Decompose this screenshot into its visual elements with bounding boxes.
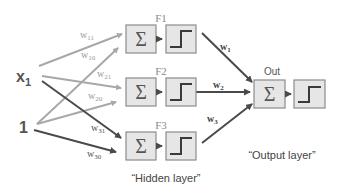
hidden-neuron-f3: F3 Σ [126, 119, 196, 160]
input-node-x1: x1 [16, 68, 31, 88]
input-hidden-weight-labels: w11 w10 w21 w20 w31 w30 [80, 29, 112, 161]
input-node-bias: 1 [19, 119, 28, 136]
neuron-label-f1: F1 [155, 12, 167, 24]
hidden-neuron-f1: F1 Σ [126, 12, 196, 53]
hidden-output-weight-labels: w1 w2 w3 [207, 41, 231, 126]
input-x-label: x [16, 68, 25, 85]
output-layer-caption: “Output layer” [248, 149, 316, 161]
sigma-icon: Σ [135, 81, 147, 103]
sigma-icon: Σ [264, 83, 276, 105]
weight-label-w31: w31 [91, 122, 106, 135]
hidden-neuron-f2: F2 Σ [126, 65, 196, 106]
output-neuron: Out Σ [254, 66, 325, 108]
bias-label: 1 [19, 119, 28, 136]
weight-label-w21: w21 [97, 68, 112, 81]
weight-label-w2: w2 [213, 79, 224, 92]
neuron-label-f3: F3 [155, 119, 167, 131]
weight-label-w3: w3 [207, 113, 218, 126]
weight-label-w30: w30 [87, 148, 102, 161]
svg-text:x1: x1 [16, 68, 31, 88]
neural-network-diagram: x1 1 w11 w10 w21 w20 w31 w30 w1 w2 w3 F1… [0, 0, 342, 193]
weight-label-w11: w11 [80, 29, 94, 42]
input-x-subscript: 1 [25, 76, 31, 88]
input-hidden-connections [34, 34, 122, 152]
sigma-icon: Σ [135, 28, 147, 50]
weight-label-w10: w10 [81, 49, 96, 62]
sigma-icon: Σ [135, 135, 147, 157]
neuron-label-f2: F2 [155, 65, 167, 77]
hidden-layer-caption: “Hidden layer” [131, 172, 200, 184]
neuron-label-out: Out [264, 66, 280, 77]
weight-label-w20: w20 [88, 90, 103, 103]
